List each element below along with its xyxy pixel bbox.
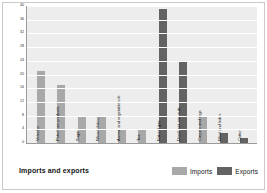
gridline: [27, 47, 257, 48]
gridline: [27, 20, 257, 21]
legend-swatch-icon: [217, 167, 232, 175]
legend: ImportsExports: [172, 167, 258, 175]
chart-title: Imports and exports: [19, 167, 89, 174]
legend-item[interactable]: Exports: [217, 167, 258, 175]
category-label: Wool and hides: [218, 114, 222, 142]
y-axis-tick-label: 20: [12, 73, 24, 77]
chart-footer: Imports and exports ImportsExports: [0, 162, 267, 188]
y-axis-tick-label: 0: [12, 141, 24, 145]
legend-label: Exports: [235, 168, 258, 175]
plot-area: VehiclesPetroleum productsSugarWoven fab…: [26, 6, 257, 144]
category-label: Cotton: [238, 129, 242, 141]
gridline: [27, 33, 257, 34]
y-axis-tick-label: 16: [12, 86, 24, 90]
y-axis-tick-label: 24: [12, 59, 24, 63]
y-axis-tick-label: 40: [12, 4, 24, 8]
gridline: [27, 129, 257, 130]
y-axis-tick-label: 36: [12, 18, 24, 22]
chart-figure: Percentage of total 0481216202428323640 …: [0, 0, 267, 193]
gridline: [27, 6, 257, 7]
y-axis-tick-label: 32: [12, 32, 24, 36]
y-axis-tick-label: 8: [12, 114, 24, 118]
gridline: [27, 116, 257, 117]
category-label: Dried fruit and nuts: [177, 107, 181, 141]
legend-label: Imports: [190, 168, 212, 175]
y-axis-tick-label: 12: [12, 100, 24, 104]
gridline: [27, 88, 257, 89]
category-label: Petroleum products: [56, 106, 60, 141]
y-axis-tick-label: 4: [12, 128, 24, 132]
plot-area-wrapper: Percentage of total 0481216202428323640 …: [5, 6, 261, 158]
y-axis-tick-label: 28: [12, 45, 24, 49]
legend-item[interactable]: Imports: [172, 167, 212, 175]
category-label: Sugar: [76, 130, 80, 141]
gridline: [27, 102, 257, 103]
gridline: [27, 75, 257, 76]
gridline: [27, 61, 257, 62]
category-label: Natural gas: [157, 121, 161, 141]
legend-swatch-icon: [172, 167, 187, 175]
category-label: Tea: [137, 135, 141, 141]
y-axis-tick-labels: 0481216202428323640: [12, 6, 24, 143]
